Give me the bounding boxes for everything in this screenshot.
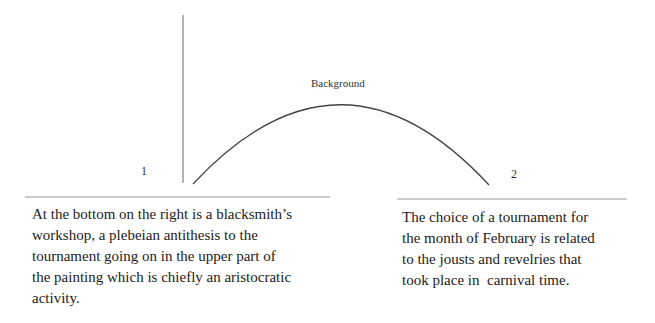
caption-right: The choice of a tournament for the month… — [402, 207, 642, 291]
background-arc — [193, 105, 489, 185]
caption-line: the painting which is chiefly an aristoc… — [32, 267, 332, 288]
marker-2-label: 2 — [511, 167, 517, 182]
caption-line: The choice of a tournament for — [402, 207, 642, 228]
caption-line: tournament going on in the upper part of — [32, 246, 332, 267]
caption-left: At the bottom on the right is a blacksmi… — [32, 204, 332, 309]
caption-line: to the jousts and revelries that — [402, 249, 642, 270]
background-label: Background — [311, 77, 365, 89]
caption-line: the month of February is related — [402, 228, 642, 249]
caption-line: activity. — [32, 288, 332, 309]
caption-line: workshop, a plebeian antithesis to the — [32, 225, 332, 246]
caption-line: At the bottom on the right is a blacksmi… — [32, 204, 332, 225]
marker-1-label: 1 — [141, 164, 147, 179]
caption-line: took place in carnival time. — [402, 270, 642, 291]
